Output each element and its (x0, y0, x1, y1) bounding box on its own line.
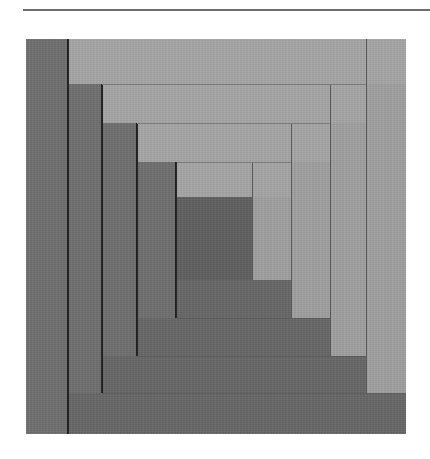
seam-left-1 (175, 162, 177, 318)
seam-right-1 (252, 162, 253, 280)
dark-strip-bottom-1 (177, 280, 291, 318)
dark-strip-bottom-4 (69, 393, 406, 434)
seam-right-4 (366, 39, 367, 393)
seam-top-1 (177, 162, 291, 163)
dark-strip-left-3 (69, 84, 102, 393)
seam-right-3 (330, 84, 331, 356)
seam-left-3 (101, 84, 103, 393)
light-strip-top-2 (137, 123, 330, 162)
dark-strip-left-2 (102, 123, 137, 356)
light-strip-right-3 (330, 123, 366, 356)
light-strip-top-4 (69, 39, 406, 84)
dark-strip-left-1 (137, 162, 177, 318)
dark-strip-left-4 (26, 39, 69, 434)
seam-left-4 (67, 39, 69, 434)
light-strip-right-2 (291, 162, 330, 318)
seam-right-2 (291, 123, 292, 318)
center-square (177, 197, 252, 280)
seam-bottom-2 (137, 356, 366, 357)
seam-bottom-1 (177, 318, 330, 319)
seam-top-2 (137, 123, 330, 124)
light-strip-right-4 (366, 84, 406, 393)
dark-strip-bottom-2 (137, 318, 330, 356)
dark-strip-bottom-3 (102, 356, 366, 393)
seam-bottom-3 (102, 393, 406, 394)
top-rule-line (23, 9, 430, 11)
seam-top-3 (102, 84, 366, 85)
seam-left-2 (136, 123, 138, 356)
light-strip-top-1 (177, 162, 291, 197)
light-strip-top-3 (102, 84, 366, 123)
light-strip-right-1 (252, 197, 291, 280)
